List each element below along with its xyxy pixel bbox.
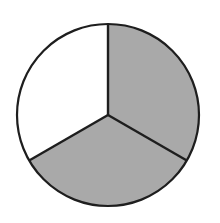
fraction-circle [0,0,220,223]
diagram-canvas [0,0,220,223]
